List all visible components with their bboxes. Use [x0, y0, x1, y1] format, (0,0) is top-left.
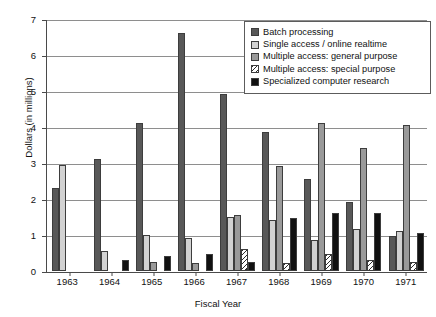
y-tick-label: 6 — [31, 51, 36, 61]
bar — [276, 166, 283, 270]
bar — [325, 254, 332, 270]
bar — [101, 251, 108, 271]
bar — [269, 220, 276, 270]
x-axis-tick-labels: 196319641965196619671968196919701971 — [46, 276, 427, 292]
x-tick-mark — [69, 272, 70, 276]
x-tick-mark — [237, 272, 238, 276]
bar — [360, 148, 367, 270]
legend-swatch-icon — [251, 78, 259, 86]
bar — [178, 33, 185, 270]
legend-swatch-icon — [251, 41, 259, 49]
bar — [143, 235, 150, 271]
bar — [396, 231, 403, 271]
bar — [192, 263, 199, 270]
legend-swatch-icon — [251, 28, 259, 36]
x-tick-label: 1963 — [46, 276, 88, 292]
bar — [262, 132, 269, 270]
x-tick-label: 1970 — [342, 276, 384, 292]
bar — [353, 229, 360, 270]
x-tick-label: 1965 — [131, 276, 173, 292]
bar — [59, 165, 66, 271]
x-tick-label: 1964 — [88, 276, 130, 292]
legend-swatch-icon — [251, 65, 259, 73]
bar — [52, 188, 59, 271]
y-tick-label: 7 — [31, 15, 36, 25]
x-tick-label: 1969 — [300, 276, 342, 292]
x-axis-title: Fiscal Year — [0, 298, 436, 309]
x-tick-mark — [363, 272, 364, 276]
y-tick-label: 5 — [31, 87, 36, 97]
bar — [136, 123, 143, 270]
x-tick-mark — [195, 272, 196, 276]
bar — [185, 238, 192, 270]
bar-group — [91, 20, 133, 271]
legend-label: Specialized computer research — [263, 77, 389, 86]
bar-chart: Dollars (in millions) 01234567 196319641… — [0, 0, 436, 317]
bar — [241, 249, 248, 271]
x-tick-label: 1966 — [173, 276, 215, 292]
x-tick-mark — [321, 272, 322, 276]
x-tick-mark — [111, 272, 112, 276]
bar — [389, 236, 396, 270]
legend-item: Batch processing — [251, 26, 424, 38]
y-tick-label: 4 — [31, 123, 36, 133]
bar-group — [49, 20, 91, 271]
legend-label: Multiple access: general purpose — [263, 52, 397, 61]
x-tick-label: 1971 — [385, 276, 427, 292]
x-tick-mark — [406, 272, 407, 276]
x-tick-mark — [153, 272, 154, 276]
bar-group — [175, 20, 217, 271]
bar — [283, 263, 290, 270]
x-tick-label: 1967 — [215, 276, 257, 292]
bar — [410, 262, 417, 271]
bar — [374, 213, 381, 270]
bar — [122, 260, 129, 271]
bar — [403, 125, 410, 271]
bar — [227, 217, 234, 271]
bar — [367, 260, 374, 271]
legend-item: Specialized computer research — [251, 76, 424, 88]
bar — [164, 256, 171, 270]
legend: Batch processingSingle access / online r… — [244, 21, 431, 94]
legend-label: Batch processing — [263, 28, 333, 37]
bar — [311, 240, 318, 271]
y-axis-tick-labels: 01234567 — [0, 20, 42, 273]
x-tick-label: 1968 — [258, 276, 300, 292]
bar — [150, 262, 157, 271]
bar — [206, 254, 213, 270]
bar — [304, 179, 311, 271]
y-tick-label: 1 — [31, 231, 36, 241]
bar — [248, 262, 255, 271]
x-tick-mark — [279, 272, 280, 276]
legend-label: Multiple access: special purpose — [263, 65, 395, 74]
legend-swatch-icon — [251, 53, 259, 61]
legend-item: Multiple access: special purpose — [251, 63, 424, 75]
y-tick-label: 0 — [31, 267, 36, 277]
bar-group — [133, 20, 175, 271]
legend-item: Single access / online realtime — [251, 38, 424, 50]
bar — [234, 215, 241, 271]
bar — [290, 218, 297, 270]
bar — [417, 233, 424, 271]
bar — [346, 202, 353, 270]
legend-item: Multiple access: general purpose — [251, 51, 424, 63]
bar — [318, 123, 325, 270]
bar — [332, 213, 339, 270]
bar — [220, 94, 227, 270]
legend-label: Single access / online realtime — [263, 40, 387, 49]
y-tick-label: 3 — [31, 159, 36, 169]
bar — [94, 159, 101, 270]
y-tick-label: 2 — [31, 195, 36, 205]
